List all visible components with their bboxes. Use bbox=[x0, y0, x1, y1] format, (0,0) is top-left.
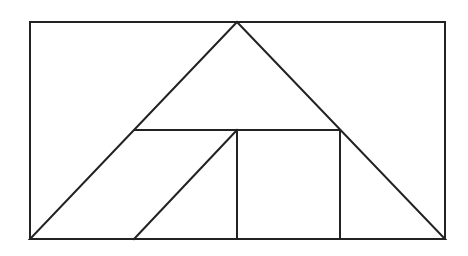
inner-diagonal bbox=[134, 130, 237, 239]
geometric-figure bbox=[0, 0, 468, 256]
